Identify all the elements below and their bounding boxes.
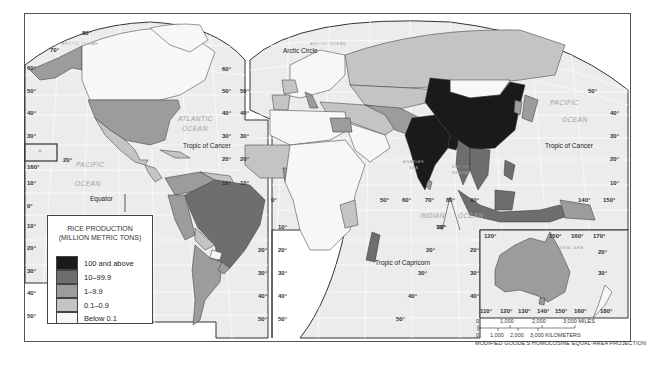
- lat-label: 30°: [598, 270, 607, 276]
- scale-label: 3,000 KILOMETERS: [530, 332, 581, 338]
- map-legend: RICE PRODUCTION (MILLION METRIC TONS) 10…: [47, 215, 153, 324]
- lat-label: 50°: [240, 88, 249, 94]
- arabian-sea-label-2: SEA: [409, 166, 419, 170]
- lon-label: 120°: [484, 233, 496, 239]
- legend-title: RICE PRODUCTION (MILLION METRIC TONS): [48, 224, 152, 242]
- lat-label: 40°: [222, 110, 231, 116]
- pacific-west-label-1: PACIFIC: [76, 162, 105, 169]
- legend-label: 10–99.9: [84, 273, 111, 282]
- lat-label: 30°: [27, 133, 36, 139]
- legend-label: 1–9.9: [84, 287, 103, 296]
- lat-label: 50°: [27, 313, 36, 319]
- lon-label: 110°: [480, 308, 492, 314]
- legend-label: Below 0.1: [84, 314, 117, 323]
- scale-bar: [478, 325, 575, 331]
- equator-label: Equator: [90, 196, 113, 203]
- scale-label: 2,000: [510, 332, 524, 338]
- lat-label: 10°: [278, 224, 287, 230]
- lat-label: 50°: [27, 88, 36, 94]
- legend-item: Below 0.1: [56, 312, 146, 325]
- lat-label: 50°: [278, 316, 287, 322]
- arabian-sea-label-1: ARABIAN: [403, 160, 424, 164]
- lon-label: 140°: [578, 197, 590, 203]
- lat-label: 40°: [408, 293, 417, 299]
- lat-label: 30°: [240, 133, 249, 139]
- legend-title-line1: RICE PRODUCTION: [48, 224, 152, 233]
- lon-label: 80°: [446, 197, 455, 203]
- lon-label: 150°: [603, 197, 615, 203]
- tropic-cancer-east-label: Tropic of Cancer: [545, 143, 593, 150]
- lon-label: 70°: [425, 197, 434, 203]
- bay-bengal-label-2: BENGAL: [452, 171, 471, 175]
- legend-item: 100 and above: [56, 256, 146, 270]
- legend-item: 0.1–0.9: [56, 298, 146, 312]
- lat-label: 20°: [63, 157, 72, 163]
- atlantic-label-2: OCEAN: [182, 126, 208, 133]
- lon-label: 160°: [571, 233, 583, 239]
- legend-title-line2: (MILLION METRIC TONS): [48, 233, 152, 242]
- projection-label: MODIFIED GOODE'S HOMOLOSINE EQUAL-AREA P…: [475, 340, 646, 346]
- lat-label: 50°: [222, 88, 231, 94]
- lat-label: 80°: [82, 30, 91, 36]
- legend-swatch: [56, 312, 78, 324]
- pacific-west-label-2: OCEAN: [75, 181, 101, 188]
- pacific-east-label-1: PACIFIC: [550, 100, 579, 107]
- legend-swatch: [56, 270, 78, 284]
- bay-bengal-label-1: BAY OF: [452, 165, 469, 169]
- lon-label: 140°: [537, 308, 549, 314]
- lat-label: 30°: [418, 270, 427, 276]
- coral-sea-label: CORAL SEA: [556, 246, 583, 250]
- indian-ocean-label-1: INDIAN: [420, 213, 445, 220]
- lat-label: 40°: [470, 293, 479, 299]
- france: [282, 80, 298, 94]
- legend-swatch: [56, 256, 78, 270]
- lon-label: 180°: [600, 308, 612, 314]
- arctic-ocean-west-label: ARCTIC OCEAN: [62, 42, 98, 46]
- tropic-cancer-west-label: Tropic of Cancer: [183, 143, 231, 150]
- legend-item: 10–99.9: [56, 270, 146, 284]
- lat-label: 50°: [396, 316, 405, 322]
- lon-label: 160°: [574, 308, 586, 314]
- lat-label: 10°: [27, 180, 36, 186]
- hawaii-inset: [25, 144, 57, 161]
- atlantic-label-1: ATLANTIC: [178, 116, 213, 123]
- scale-label: 0: [476, 318, 479, 324]
- lat-label: 10°: [437, 224, 446, 230]
- legend-swatch: [56, 284, 78, 298]
- legend-item: 1–9.9: [56, 284, 146, 298]
- lat-label: 20°: [470, 247, 479, 253]
- lat-label: 40°: [27, 110, 36, 116]
- lat-label: 50°: [258, 316, 267, 322]
- borneo: [495, 190, 515, 210]
- lat-label: 20°: [258, 247, 267, 253]
- scale-label: 1,000: [490, 332, 504, 338]
- legend-label: 100 and above: [84, 259, 134, 268]
- lat-label: 40°: [27, 290, 36, 296]
- lat-label: 30°: [258, 270, 267, 276]
- lat-label: 30°: [470, 270, 479, 276]
- lat-label: 50°: [588, 88, 597, 94]
- iberia: [272, 95, 290, 110]
- lat-label: 20°: [278, 247, 287, 253]
- lat-label: 0°: [271, 197, 277, 203]
- lon-label: 150°: [555, 308, 567, 314]
- lat-label: 30°: [610, 133, 619, 139]
- scale-label: 1,000: [500, 318, 514, 324]
- legend-swatch: [56, 298, 78, 312]
- lat-label: 10°: [610, 180, 619, 186]
- legend-label: 0.1–0.9: [84, 301, 109, 310]
- tropic-capricorn-label: Tropic of Capricorn: [375, 260, 430, 267]
- scale-label: 2,000: [532, 318, 546, 324]
- lat-label: 40°: [258, 293, 267, 299]
- egypt: [330, 118, 352, 132]
- lat-label: 30°: [222, 133, 231, 139]
- lon-label: 60°: [402, 197, 411, 203]
- lat-label: 20°: [240, 156, 249, 162]
- lat-label: 10°: [27, 223, 36, 229]
- indian-ocean-label-2: OCEAN: [458, 213, 484, 220]
- scale-label: 0: [476, 332, 479, 338]
- lat-label: 40°: [278, 293, 287, 299]
- lat-label: 0°: [27, 203, 33, 209]
- lon-label: 170°: [593, 233, 605, 239]
- lon-label: 150°: [549, 233, 561, 239]
